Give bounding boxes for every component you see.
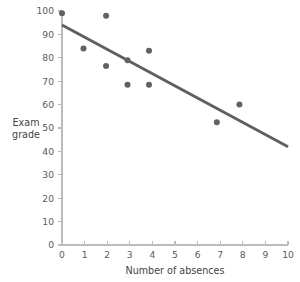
y-tick-label: 20 <box>42 193 54 204</box>
y-tick-label: 80 <box>42 52 54 63</box>
x-tick-label: 4 <box>149 249 155 260</box>
data-point <box>80 45 86 51</box>
y-tick-label: 50 <box>42 122 54 133</box>
x-tick-label: 2 <box>104 249 110 260</box>
data-point <box>146 82 152 88</box>
x-tick-label: 3 <box>127 249 133 260</box>
x-tick-label: 8 <box>240 249 246 260</box>
y-tick-label: 70 <box>42 76 54 87</box>
x-tick-label: 10 <box>282 249 294 260</box>
y-tick-label: 0 <box>48 239 54 250</box>
x-tick-label: 7 <box>217 249 223 260</box>
y-tick-label: 60 <box>42 99 54 110</box>
data-point <box>146 48 152 54</box>
chart-canvas: 0102030405060708090100 012345678910 Numb… <box>0 0 300 282</box>
data-point <box>103 63 109 69</box>
y-axis-ticks: 0102030405060708090100 <box>36 5 62 250</box>
data-point <box>103 13 109 19</box>
data-point <box>125 57 131 63</box>
x-tick-label: 5 <box>172 249 178 260</box>
data-point <box>236 102 242 108</box>
y-axis-title-line-2: grade <box>12 129 40 140</box>
y-tick-label: 100 <box>36 5 54 16</box>
x-tick-label: 1 <box>82 249 88 260</box>
x-axis-ticks: 012345678910 <box>59 241 294 260</box>
x-tick-label: 9 <box>262 249 268 260</box>
y-tick-label: 40 <box>42 146 54 157</box>
scatter-plot-figure: 0102030405060708090100 012345678910 Numb… <box>0 0 300 282</box>
trend-line-group <box>62 25 288 147</box>
y-axis-title-line-1: Exam <box>13 117 40 128</box>
x-axis-title: Number of absences <box>125 265 224 276</box>
data-point <box>59 10 65 16</box>
x-tick-label: 6 <box>195 249 201 260</box>
y-tick-label: 90 <box>42 29 54 40</box>
x-tick-label: 0 <box>59 249 65 260</box>
y-tick-label: 30 <box>42 169 54 180</box>
y-tick-label: 10 <box>42 216 54 227</box>
regression-line <box>62 25 288 147</box>
data-point <box>125 82 131 88</box>
data-point <box>214 119 220 125</box>
